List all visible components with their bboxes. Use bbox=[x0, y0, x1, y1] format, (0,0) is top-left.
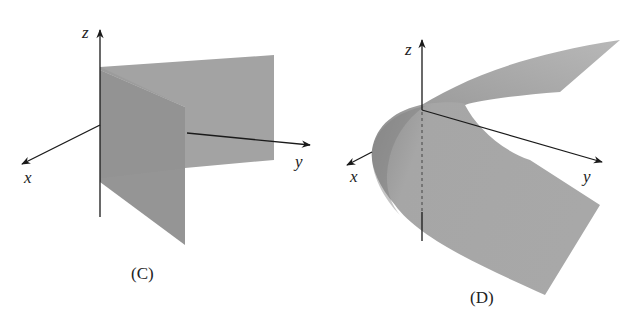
surface-upper-branch bbox=[410, 40, 620, 112]
y-label: y bbox=[581, 167, 591, 186]
x-label: x bbox=[23, 168, 32, 187]
x-axis bbox=[22, 125, 100, 164]
y-label: y bbox=[293, 152, 303, 171]
caption-c: (C) bbox=[131, 264, 154, 283]
caption-d: (D) bbox=[470, 288, 494, 307]
figure-canvas: z x y (C) z x y (D) bbox=[0, 0, 626, 311]
z-label: z bbox=[404, 40, 412, 59]
x-axis bbox=[347, 152, 372, 165]
z-label: z bbox=[81, 23, 89, 42]
surface-main bbox=[372, 102, 600, 295]
figure-c: z x y (C) bbox=[22, 23, 310, 283]
x-label: x bbox=[349, 167, 358, 186]
figure-d: z x y (D) bbox=[347, 40, 620, 307]
